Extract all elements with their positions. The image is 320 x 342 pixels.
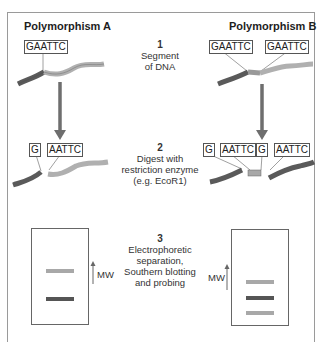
dna-fragment-light bbox=[48, 162, 108, 175]
leader-line bbox=[270, 155, 285, 170]
mw-label-right: MW bbox=[208, 272, 225, 283]
gel-polymorphism-b bbox=[231, 229, 289, 326]
arrow-up-icon bbox=[91, 261, 96, 266]
mw-label-left: MW bbox=[97, 269, 114, 280]
site-b2: GAATTC bbox=[265, 40, 309, 54]
arrow-head-icon bbox=[54, 130, 66, 140]
arrow-head-icon bbox=[256, 130, 268, 140]
gel-band-dark bbox=[246, 296, 274, 300]
cut-b-4: AATTC bbox=[274, 143, 310, 157]
dna-fragment-dark bbox=[13, 172, 41, 185]
dna-segment-dark bbox=[218, 72, 248, 84]
cut-b-2: AATTC bbox=[220, 143, 256, 157]
dna-segment-light bbox=[44, 64, 104, 74]
dna-segment-mid bbox=[248, 72, 260, 73]
leader-line bbox=[261, 155, 262, 170]
dna-fragment-small bbox=[248, 170, 261, 176]
step-2-label: 2 Digest with restriction enzyme (e.g. E… bbox=[110, 142, 210, 186]
gel-polymorphism-a bbox=[31, 228, 89, 325]
leader-line bbox=[36, 155, 41, 171]
leader-line bbox=[211, 155, 242, 169]
leader-line bbox=[49, 155, 60, 170]
gel-band-light bbox=[246, 280, 274, 284]
cut-a-left: G bbox=[29, 143, 41, 157]
step-3-label: 3 Electrophoretic separation, Southern b… bbox=[110, 233, 210, 288]
cut-a-right: AATTC bbox=[47, 143, 83, 157]
dna-segment-light bbox=[260, 64, 313, 73]
site-b1: GAATTC bbox=[209, 40, 253, 54]
dna-fragment-dark bbox=[210, 170, 242, 182]
step-1-label: 1 Segment of DNA bbox=[110, 39, 210, 72]
arrow-up-icon bbox=[225, 264, 230, 269]
cut-b-3: G bbox=[256, 143, 268, 157]
gel-band-dark bbox=[46, 297, 74, 301]
gel-band-light bbox=[46, 269, 74, 273]
leader-line bbox=[222, 51, 247, 71]
gel-band-light bbox=[246, 311, 274, 315]
leader-line bbox=[232, 155, 250, 170]
site-a: GAATTC bbox=[24, 40, 68, 54]
